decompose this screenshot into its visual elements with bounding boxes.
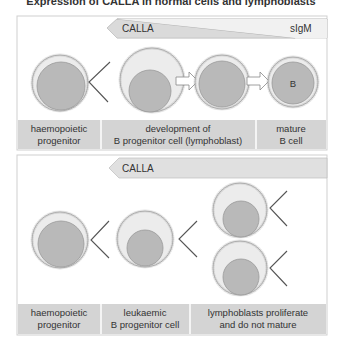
calla-label: CALLA [122,163,154,174]
cell-haemopoietic-progenitor [32,55,88,111]
cell-lymphoblast-1 [213,183,267,237]
label-b-progenitor-lymphoblast: B progenitor cell (lymphoblast) [114,135,242,146]
top-panel: CALLA sIgM B [17,16,327,150]
cell-leukaemic-b-progenitor [117,211,173,267]
cell-lymphoblast-2 [213,241,267,295]
label-progenitor: progenitor [38,319,81,330]
cell-haemopoietic-progenitor [32,212,88,268]
label-haemopoietic: haemopoietic [31,307,88,318]
cell-mature-b: B [268,57,318,107]
cell-b-progenitor-late [195,55,249,109]
bottom-panel: CALLA [17,155,327,335]
top-marker-bar: CALLA sIgM [107,19,327,38]
label-lymphoblasts-proliferate: lymphoblasts proliferate [208,307,308,318]
figure-title: Expression of CALLA in normal cells and … [26,0,315,7]
cell-b-progenitor-early [120,48,184,112]
b-cell-label: B [290,78,296,89]
label-do-not-mature: and do not mature [219,319,296,330]
bottom-marker-bar: CALLA [109,158,327,178]
label-development-of: development of [146,123,211,134]
label-mature: mature [276,123,306,134]
label-b-progenitor-cell: B progenitor cell [111,319,180,330]
label-b-cell: B cell [279,135,302,146]
bottom-label-strip: haemopoietic progenitor leukaemic B prog… [18,304,326,334]
label-progenitor: progenitor [38,135,81,146]
label-leukaemic: leukaemic [124,307,167,318]
calla-expression-diagram: Expression of CALLA in normal cells and … [0,0,343,343]
calla-label: CALLA [122,23,154,34]
label-haemopoietic: haemopoietic [31,123,88,134]
top-label-strip: haemopoietic progenitor development of B… [18,120,326,149]
sigm-label: sIgM [290,23,312,34]
